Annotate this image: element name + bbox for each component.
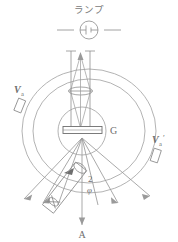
vernier-a-prime-plate: [150, 148, 161, 163]
telescope-entry-arrowhead: [64, 168, 74, 175]
vernier-a-prime-subscript: a: [159, 140, 162, 147]
lamp-symbol: [57, 21, 121, 39]
telescope-objective-lens: [72, 161, 88, 176]
arrowhead-zero: [79, 218, 85, 226]
collimator-ray-right: [81, 55, 91, 128]
vernier-a-label-group: V a: [14, 84, 24, 97]
grating-label: G: [110, 125, 117, 136]
vernier-a: [14, 98, 26, 113]
telescope-entry-arrow: [64, 168, 74, 175]
telescope-axis-label: A: [78, 229, 86, 240]
telescope-tube: [42, 161, 88, 214]
collimator-rays: [71, 52, 91, 131]
angle-symbol-label: φ: [87, 185, 92, 195]
ray-arrowheads: [24, 194, 150, 225]
vernier-a-prime-prime-mark: ′: [163, 134, 165, 143]
vernier-a-subscript: a: [21, 90, 24, 97]
vernier-a-plate: [14, 98, 26, 113]
diffracted-rays: [24, 138, 150, 225]
collimator-arrowhead: [78, 52, 84, 60]
vernier-a-prime: [150, 148, 161, 163]
vernier-a-prime-label-group: V a ′: [152, 134, 165, 147]
grating: [63, 127, 102, 134]
collimator-ray-left: [71, 55, 81, 128]
angle-value-label: 2: [88, 174, 93, 184]
spectrometer-diagram: ランプ G: [0, 0, 178, 242]
ray-plus-2: [82, 138, 150, 196]
lamp-label: ランプ: [74, 4, 104, 15]
